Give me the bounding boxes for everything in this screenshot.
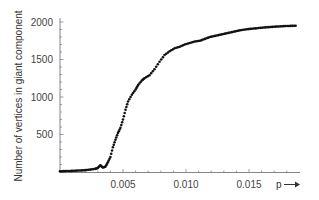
data-point xyxy=(119,126,122,129)
chart: 500100015002000 0.0050.0100.015 Number o… xyxy=(0,0,319,200)
data-point xyxy=(123,112,126,115)
data-point xyxy=(294,24,297,27)
data-point xyxy=(129,96,132,99)
data-point xyxy=(110,152,113,155)
x-tick-label: 0.015 xyxy=(236,179,261,190)
data-point xyxy=(109,156,112,159)
data-point xyxy=(162,56,165,59)
data-point xyxy=(124,108,127,111)
data-point xyxy=(152,70,155,73)
y-tick-label: 1000 xyxy=(31,92,54,103)
y-axis: 500100015002000 xyxy=(31,17,64,174)
data-point xyxy=(112,143,115,146)
x-axis: 0.0050.0100.015 xyxy=(60,169,300,190)
data-point xyxy=(114,138,117,141)
data-point xyxy=(127,100,130,103)
x-tick-label: 0.005 xyxy=(110,179,135,190)
y-tick-label: 500 xyxy=(36,129,53,140)
data-point xyxy=(125,106,128,109)
data-points xyxy=(59,24,297,172)
data-point xyxy=(157,63,160,66)
data-point xyxy=(116,134,119,137)
data-point xyxy=(123,115,126,118)
data-point xyxy=(121,121,124,124)
arrow-right-icon xyxy=(284,182,300,188)
data-point xyxy=(126,103,129,106)
x-axis-label: p xyxy=(276,179,282,190)
data-point xyxy=(153,68,156,71)
data-point xyxy=(115,136,118,139)
data-point xyxy=(148,74,151,77)
y-axis-title: Number of vertices in giant component xyxy=(13,10,24,181)
data-point xyxy=(122,118,125,121)
x-axis-title: p xyxy=(276,179,300,190)
y-tick-label: 1500 xyxy=(31,54,54,65)
y-tick-label: 2000 xyxy=(31,17,54,28)
data-point xyxy=(128,98,131,101)
data-point xyxy=(160,58,163,61)
data-point xyxy=(155,65,158,68)
data-point xyxy=(112,146,115,149)
data-point xyxy=(120,124,123,127)
data-point xyxy=(113,141,116,144)
data-point xyxy=(158,60,161,63)
x-tick-label: 0.010 xyxy=(173,179,198,190)
data-point xyxy=(111,149,114,152)
data-point xyxy=(150,72,153,75)
